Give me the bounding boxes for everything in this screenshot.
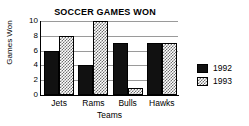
y-tick-label: 2 (34, 76, 38, 84)
bar-rams-1992 (78, 65, 93, 95)
bar-rams-1993 (93, 21, 108, 95)
bar-jets-1992 (44, 51, 59, 95)
bar-group-rams (78, 21, 108, 95)
y-tick-label: 8 (34, 32, 38, 40)
y-axis-label: Games Won (5, 16, 14, 70)
x-tick-label-hawks: Hawks (142, 98, 182, 108)
y-tick-label: 6 (34, 47, 38, 55)
bar-group-bulls (113, 21, 143, 95)
legend-swatch-1992 (197, 64, 208, 73)
bar-bulls-1993 (128, 88, 143, 95)
y-tick-label: 0 (34, 91, 38, 99)
legend-item-1992: 1992 (197, 62, 232, 75)
y-tick-label: 10 (29, 17, 38, 25)
legend-label-1993: 1993 (213, 77, 232, 86)
chart-legend: 1992 1993 (197, 62, 232, 88)
bar-group-jets (44, 21, 74, 95)
plot-area: 0246810 (41, 21, 178, 95)
legend-label-1992: 1992 (213, 64, 232, 73)
chart-title: SOCCER GAMES WON (30, 7, 180, 17)
bar-chart: SOCCER GAMES WON Games Won 0246810 Teams… (0, 0, 249, 126)
y-tick-label: 4 (34, 61, 38, 69)
legend-swatch-1993 (197, 77, 208, 86)
bar-bulls-1992 (113, 43, 128, 95)
x-axis-line (40, 95, 179, 96)
legend-item-1993: 1993 (197, 75, 232, 88)
x-axis-label: Teams (40, 110, 179, 120)
bar-jets-1993 (59, 36, 74, 95)
bar-group-hawks (147, 21, 177, 95)
bar-hawks-1993 (162, 43, 177, 95)
bar-hawks-1992 (147, 43, 162, 95)
